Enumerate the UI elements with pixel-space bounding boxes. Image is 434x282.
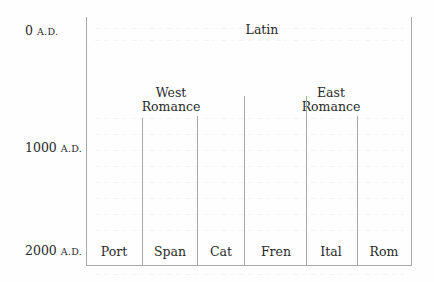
- group-label-line2: Romance: [302, 100, 361, 114]
- language-label-span: Span: [154, 245, 186, 259]
- divider-port-span: [142, 118, 143, 266]
- group-label-line1: West: [142, 86, 201, 100]
- romance-language-diagram: 0 A.D. 1000 A.D. 2000 A.D. Latin West Ro…: [0, 0, 434, 282]
- root-label-latin: Latin: [246, 23, 279, 37]
- language-label-port: Port: [101, 245, 127, 259]
- frame-right-line: [411, 17, 412, 266]
- divider-cat-fren: [244, 96, 245, 266]
- bleed-through-texture: [95, 40, 404, 41]
- time-era: A.D.: [61, 246, 82, 257]
- group-label-line1: East: [302, 86, 361, 100]
- group-label-west-romance: West Romance: [142, 86, 201, 114]
- time-label-2000ad: 2000 A.D.: [25, 244, 82, 259]
- language-label-rom: Rom: [370, 245, 399, 259]
- frame-bottom-line: [86, 265, 412, 266]
- time-year: 0: [25, 23, 33, 38]
- time-era: A.D.: [61, 143, 82, 154]
- time-era: A.D.: [37, 26, 58, 37]
- language-label-fren: Fren: [261, 245, 291, 259]
- frame-left-line: [86, 17, 87, 266]
- time-label-0ad: 0 A.D.: [25, 24, 58, 39]
- divider-ital-rom: [357, 116, 358, 266]
- divider-span-cat: [197, 116, 198, 266]
- language-label-ital: Ital: [320, 245, 341, 259]
- group-label-east-romance: East Romance: [302, 86, 361, 114]
- time-year: 1000: [25, 140, 57, 155]
- group-label-line2: Romance: [142, 100, 201, 114]
- bleed-through-texture: [95, 274, 404, 275]
- time-label-1000ad: 1000 A.D.: [25, 141, 82, 156]
- time-year: 2000: [25, 243, 57, 258]
- divider-fren-ital: [306, 96, 307, 266]
- language-label-cat: Cat: [210, 245, 232, 259]
